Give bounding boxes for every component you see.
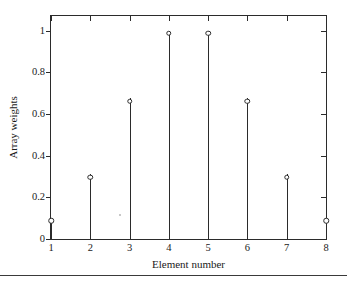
- data-point-marker: [284, 174, 290, 180]
- x-axis-tick-label: 6: [245, 243, 250, 254]
- data-point-marker: [127, 98, 133, 104]
- y-axis-tick-label: 0.6: [32, 109, 45, 120]
- x-axis-title: Element number: [50, 259, 327, 270]
- x-axis-tick-label: 3: [127, 243, 132, 254]
- y-axis-title-text: Array weights: [8, 96, 19, 159]
- x-axis-tick-label: 2: [88, 243, 93, 254]
- x-axis-tick-label: 8: [323, 243, 328, 254]
- stem-line: [90, 174, 91, 239]
- y-axis-tick-right: [321, 156, 326, 157]
- data-point-marker: [245, 98, 251, 104]
- y-axis-tick-right: [321, 31, 326, 32]
- y-axis-tick-label: 0.8: [32, 67, 45, 78]
- x-axis-tick-label: 4: [166, 243, 171, 254]
- y-axis-tick-label: 1: [40, 25, 45, 36]
- x-axis-tick-top: [130, 16, 131, 21]
- x-axis-tick-label: 5: [206, 243, 211, 254]
- y-axis-tick-right: [321, 72, 326, 73]
- x-axis-tick-top: [90, 16, 91, 21]
- stem-line: [130, 98, 131, 239]
- y-axis-tick: [46, 197, 51, 198]
- plot-area: 00.20.40.60.8112345678: [50, 15, 327, 240]
- y-axis-tick: [46, 156, 51, 157]
- x-axis-tick-top: [51, 16, 52, 21]
- x-axis-tick-top: [169, 16, 170, 21]
- y-axis-tick: [46, 72, 51, 73]
- y-axis-tick-label: 0.2: [32, 192, 45, 203]
- data-point-marker: [166, 31, 172, 37]
- x-axis-tick-top: [208, 16, 209, 21]
- data-point-marker: [88, 174, 94, 180]
- y-axis-tick-right: [321, 239, 326, 240]
- x-axis-tick-label: 1: [48, 243, 53, 254]
- figure: 00.20.40.60.8112345678 Array weights Ele…: [0, 0, 347, 281]
- y-axis-tick-label: 0.4: [32, 150, 45, 161]
- y-axis-tick-right: [321, 114, 326, 115]
- data-point-marker: [205, 31, 211, 37]
- x-axis-tick-top: [287, 16, 288, 21]
- y-axis-tick: [46, 31, 51, 32]
- y-axis-title: Array weights: [6, 15, 20, 240]
- stem-line: [169, 31, 170, 239]
- stem-line: [247, 98, 248, 239]
- y-axis-tick: [46, 114, 51, 115]
- data-point-marker: [323, 218, 329, 224]
- x-axis-tick-top: [326, 16, 327, 21]
- y-axis-tick-label: 0: [40, 234, 45, 245]
- stem-line: [208, 31, 209, 239]
- y-axis-tick-right: [321, 197, 326, 198]
- data-point-marker: [48, 218, 54, 224]
- artifact-speck: [119, 214, 121, 216]
- x-axis-tick-top: [247, 16, 248, 21]
- y-axis-tick: [46, 239, 51, 240]
- bottom-rule-divider: [0, 275, 347, 276]
- x-axis-tick-label: 7: [284, 243, 289, 254]
- stem-line: [287, 174, 288, 239]
